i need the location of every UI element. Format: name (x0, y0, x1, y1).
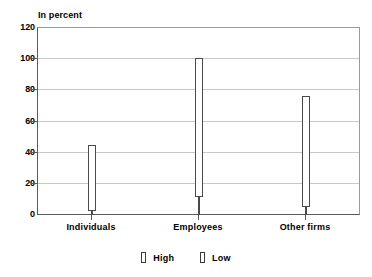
legend-label-low: Low (212, 253, 231, 263)
range-bar-other-firms (302, 96, 310, 207)
y-tick-label-120: 120 (9, 22, 35, 32)
legend-swatch-low-icon (200, 252, 205, 263)
legend-swatch-high-icon (141, 252, 146, 263)
range-bar-employees (195, 58, 203, 197)
legend-entry-high: High (141, 252, 174, 263)
chart-legend: High Low (0, 252, 372, 263)
legend-label-high: High (153, 253, 174, 263)
x-tick-mark-employees (198, 215, 199, 220)
chart-figure: In percent 120 100 80 60 40 20 0 Individ… (0, 0, 372, 277)
plot-area (37, 27, 360, 215)
x-tick-mark-individuals (91, 215, 92, 220)
legend-entry-low: Low (200, 252, 231, 263)
range-bar-individuals (88, 145, 96, 211)
x-tick-mark-other-firms (305, 215, 306, 220)
range-bar-other-firms-stub (305, 207, 307, 215)
x-category-label-employees: Employees (173, 222, 222, 232)
y-axis-unit-label: In percent (38, 10, 82, 20)
x-category-label-other-firms: Other firms (280, 222, 331, 232)
x-category-label-individuals: Individuals (66, 222, 115, 232)
y-tick-label-0: 0 (9, 209, 35, 219)
range-bar-employees-stub (198, 197, 200, 215)
